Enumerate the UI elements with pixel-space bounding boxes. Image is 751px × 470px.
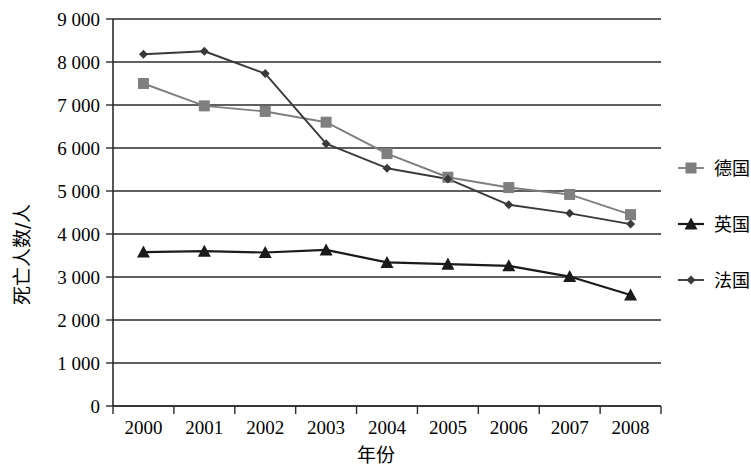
gridlines: [113, 19, 661, 406]
y-tick-label: 4 000: [57, 224, 100, 245]
y-tick-label: 1 000: [57, 353, 100, 374]
data-point-法国: [504, 200, 513, 209]
data-point-法国: [565, 209, 574, 218]
y-tick-label: 5 000: [57, 181, 100, 202]
chart-container: 01 0002 0003 0004 0005 0006 0007 0008 00…: [0, 0, 751, 470]
x-tick-label: 2005: [429, 417, 467, 438]
data-point-德国: [564, 189, 575, 200]
legend-label-法国[interactable]: 法国: [714, 270, 750, 291]
y-axis-ticks: [106, 19, 113, 406]
line-chart: 01 0002 0003 0004 0005 0006 0007 0008 00…: [0, 0, 751, 470]
x-tick-label: 2007: [551, 417, 589, 438]
legend-marker-法国: [687, 276, 696, 285]
x-tick-label: 2008: [612, 417, 650, 438]
data-point-德国: [199, 100, 210, 111]
x-axis-title: 年份: [357, 444, 395, 466]
y-axis-tick-labels: 01 0002 0003 0004 0005 0006 0007 0008 00…: [57, 9, 100, 417]
legend-label-英国[interactable]: 英国: [714, 214, 750, 235]
data-point-法国: [139, 50, 148, 59]
data-point-法国: [626, 220, 635, 229]
series-line-法国: [143, 51, 630, 224]
y-axis-title: 死亡人数/人: [11, 204, 33, 305]
x-axis-ticks: [113, 406, 661, 414]
chart-legend: 德国英国法国: [678, 158, 750, 291]
y-tick-label: 2 000: [57, 310, 100, 331]
data-point-德国: [382, 148, 393, 159]
data-point-德国: [321, 117, 332, 128]
x-axis-tick-labels: 200020012002200320042005200620072008: [124, 417, 649, 438]
x-tick-label: 2006: [490, 417, 528, 438]
x-tick-label: 2004: [368, 417, 407, 438]
y-tick-label: 0: [91, 396, 101, 417]
x-tick-label: 2000: [124, 417, 162, 438]
legend-label-德国[interactable]: 德国: [714, 158, 750, 179]
data-point-德国: [138, 78, 149, 89]
data-point-德国: [503, 182, 514, 193]
x-tick-label: 2003: [307, 417, 345, 438]
data-point-德国: [625, 209, 636, 220]
data-point-德国: [260, 106, 271, 117]
y-tick-label: 3 000: [57, 267, 100, 288]
x-tick-label: 2002: [246, 417, 284, 438]
y-tick-label: 6 000: [57, 138, 100, 159]
legend-marker-德国: [686, 163, 697, 174]
x-tick-label: 2001: [185, 417, 223, 438]
series-markers: [137, 47, 637, 301]
y-tick-label: 8 000: [57, 52, 100, 73]
y-tick-label: 7 000: [57, 95, 100, 116]
data-point-法国: [383, 164, 392, 173]
y-tick-label: 9 000: [57, 9, 100, 30]
axis-lines: [113, 19, 661, 406]
data-point-法国: [200, 47, 209, 56]
